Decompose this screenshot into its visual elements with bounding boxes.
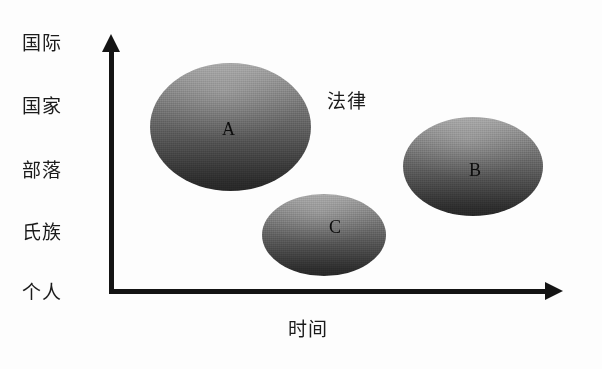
x-axis-title: 时间 xyxy=(266,320,350,339)
y-axis-tick-label-tribe: 部落 xyxy=(22,161,84,180)
x-axis-line xyxy=(109,289,553,294)
blob-c xyxy=(262,194,386,276)
blob-b-label: B xyxy=(469,161,481,179)
blob-a-label: A xyxy=(222,120,235,138)
annotation-law: 法律 xyxy=(327,92,367,111)
figure-canvas: 国际 国家 部落 氏族 个人 时间 法律 A B C xyxy=(0,0,602,369)
y-axis-line xyxy=(109,46,114,294)
y-axis-tick-label-nation: 国家 xyxy=(22,97,84,116)
blob-c-label: C xyxy=(329,218,341,236)
y-axis-tick-label-individual: 个人 xyxy=(22,283,84,302)
y-axis-tick-label-international: 国际 xyxy=(22,34,84,53)
x-axis-arrow-icon xyxy=(545,282,563,300)
y-axis-tick-label-clan: 氏族 xyxy=(22,223,84,242)
y-axis-arrow-icon xyxy=(102,34,120,52)
